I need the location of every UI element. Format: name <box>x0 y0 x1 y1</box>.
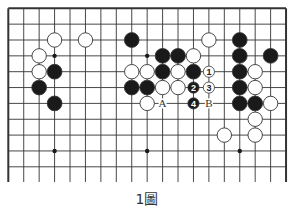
point-label: B <box>205 97 212 109</box>
white-stone <box>171 65 185 79</box>
white-stone <box>125 65 139 79</box>
white-stone <box>32 65 46 79</box>
white-stone <box>155 80 169 94</box>
white-stone <box>78 33 92 47</box>
star-point <box>145 54 149 58</box>
black-stone <box>124 33 139 48</box>
black-stone <box>248 96 263 111</box>
star-point <box>52 54 56 58</box>
white-stone <box>248 80 262 94</box>
move-number: 2 <box>191 83 196 93</box>
white-stone <box>32 49 46 63</box>
white-stone <box>217 128 231 142</box>
black-stone <box>232 80 247 95</box>
black-stone <box>32 80 47 95</box>
black-stone <box>47 64 62 79</box>
star-point <box>145 149 149 153</box>
black-stone <box>155 48 170 63</box>
black-stone <box>186 64 201 79</box>
white-stone <box>186 49 200 63</box>
black-stone <box>124 80 139 95</box>
black-stone <box>232 96 247 111</box>
diagram-caption: 1圖 <box>0 188 294 208</box>
black-stone <box>232 33 247 48</box>
white-stone <box>171 80 185 94</box>
point-label: A <box>159 97 167 109</box>
move-number: 4 <box>191 99 196 109</box>
white-stone <box>140 65 154 79</box>
black-stone <box>263 48 278 63</box>
white-stone <box>248 65 262 79</box>
white-stone <box>47 33 61 47</box>
white-stone <box>202 33 216 47</box>
white-stone <box>263 96 277 110</box>
white-stone <box>248 128 262 142</box>
black-stone <box>232 64 247 79</box>
star-point <box>238 149 242 153</box>
black-stone <box>232 48 247 63</box>
black-stone <box>171 48 186 63</box>
star-point <box>52 149 56 153</box>
white-stone <box>140 96 154 110</box>
black-stone <box>140 80 155 95</box>
black-stone <box>155 64 170 79</box>
white-stone <box>248 112 262 126</box>
move-number: 1 <box>206 67 211 77</box>
go-board-diagram: 1234 AB <box>0 0 294 190</box>
move-number: 3 <box>206 83 211 93</box>
black-stone <box>47 96 62 111</box>
